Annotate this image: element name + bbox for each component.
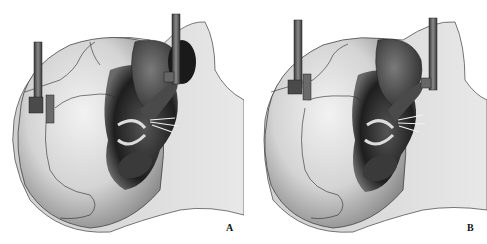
skull-illustration-a bbox=[0, 0, 244, 244]
retractor-rod bbox=[34, 42, 42, 102]
retractor-clamp bbox=[288, 80, 302, 94]
retractor-blade bbox=[421, 78, 431, 88]
retractor-blade bbox=[46, 95, 54, 123]
retractor-blade bbox=[303, 74, 311, 100]
retractor-rod bbox=[294, 20, 302, 88]
retractor-clamp bbox=[29, 97, 43, 113]
retractor-blade bbox=[164, 72, 174, 82]
figure-panel-b bbox=[243, 0, 487, 244]
figure-panel-a bbox=[0, 0, 244, 244]
panel-label-b: B bbox=[467, 222, 474, 233]
panel-label-a: A bbox=[226, 222, 233, 233]
skull-illustration-b bbox=[243, 0, 487, 244]
